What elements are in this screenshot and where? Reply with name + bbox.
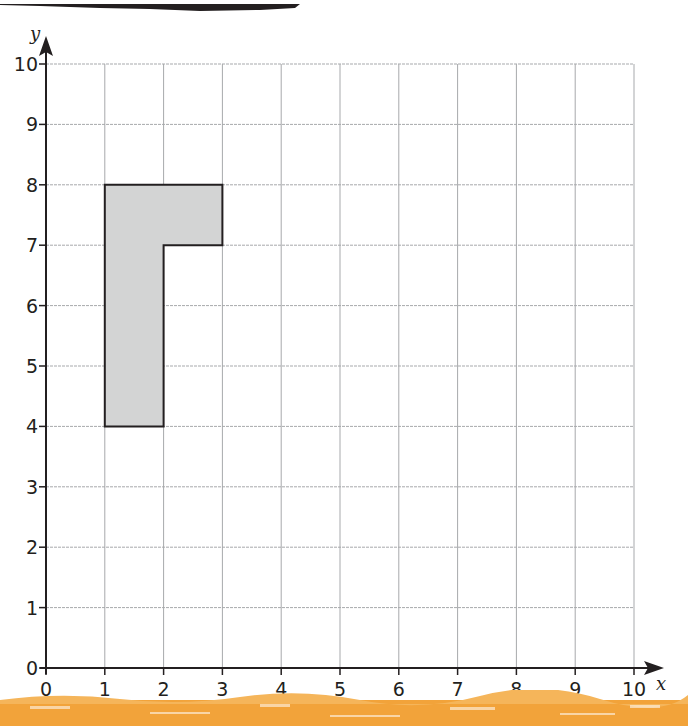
bottom-decorative-band: [0, 690, 688, 726]
y-axis-label: y: [29, 23, 41, 44]
y-tick-label: 6: [26, 295, 38, 317]
y-tick-label: 8: [26, 174, 38, 196]
y-tick-label: 7: [26, 234, 38, 256]
coordinate-grid: 012345678910 012345678910 x y: [0, 0, 688, 726]
y-tick-label: 5: [26, 355, 38, 377]
y-tick-label: 3: [26, 476, 38, 498]
y-tick-labels: 012345678910: [14, 53, 38, 679]
y-tick-label: 10: [14, 53, 38, 75]
y-tick-label: 1: [26, 597, 38, 619]
y-tick-label: 0: [26, 657, 38, 679]
y-tick-label: 4: [26, 415, 38, 437]
y-tick-label: 2: [26, 536, 38, 558]
y-tick-label: 9: [26, 113, 38, 135]
